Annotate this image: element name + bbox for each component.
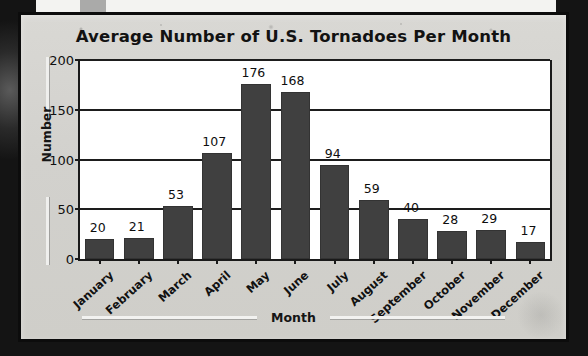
bar [476, 230, 506, 259]
bar [85, 239, 115, 259]
y-tick-mark [75, 159, 80, 161]
bar-group: 168 [281, 60, 311, 259]
bar [241, 84, 271, 259]
bar-group: 176 [241, 60, 271, 259]
bar [124, 238, 154, 259]
bar-value-label: 94 [325, 146, 341, 161]
bar-value-label: 20 [90, 220, 106, 235]
bar-group: 29 [476, 60, 506, 259]
y-tick-label: 150 [49, 102, 74, 117]
x-category-label: July [324, 268, 351, 294]
x-axis-rule-left [82, 316, 257, 319]
bar-value-label: 53 [168, 187, 184, 202]
y-tick-mark [75, 208, 80, 210]
y-tick-label: 0 [66, 252, 74, 267]
bar-value-label: 17 [521, 223, 537, 238]
y-tick-mark [75, 109, 80, 111]
bar [202, 153, 232, 259]
bar-group: 53 [163, 60, 193, 259]
x-axis-label: Month [271, 310, 316, 325]
x-category-label: March [155, 268, 194, 305]
bar-group: 20 [85, 60, 115, 259]
bar-value-label: 107 [202, 134, 226, 149]
y-axis-rule-bottom [46, 197, 49, 265]
chart-card: Average Number of U.S. Tornadoes Per Mon… [18, 12, 569, 342]
bar-group: 40 [398, 60, 428, 259]
bar-group: 94 [320, 60, 350, 259]
y-tick-label: 200 [49, 53, 74, 68]
bar-group: 59 [359, 60, 389, 259]
bar-value-label: 168 [281, 73, 305, 88]
bar-group: 28 [437, 60, 467, 259]
bar [398, 219, 428, 259]
chart-title: Average Number of U.S. Tornadoes Per Mon… [21, 27, 566, 46]
y-tick-mark [75, 59, 80, 61]
x-axis-rule-right [330, 316, 505, 319]
bar [163, 206, 193, 259]
y-tick-label: 100 [49, 152, 74, 167]
plot-area: 050100150200 202153107176168945940282917… [78, 60, 552, 259]
x-category-label: April [201, 268, 233, 299]
scanned-page: Average Number of U.S. Tornadoes Per Mon… [0, 0, 588, 356]
bar-value-label: 21 [129, 219, 145, 234]
x-axis-baseline [78, 259, 552, 261]
bar-value-label: 176 [241, 65, 265, 80]
bar-group: 107 [202, 60, 232, 259]
bar-value-label: 40 [403, 200, 419, 215]
bar [359, 200, 389, 259]
y-tick-label: 50 [57, 202, 74, 217]
x-axis-label-group: Month [21, 310, 566, 325]
bar-value-label: 28 [442, 212, 458, 227]
bar-value-label: 29 [481, 211, 497, 226]
bar [516, 242, 546, 259]
bar [281, 92, 311, 259]
bar-group: 17 [516, 60, 546, 259]
x-category-label: June [281, 268, 312, 297]
bar-value-label: 59 [364, 181, 380, 196]
bar [437, 231, 467, 259]
bar-group: 21 [124, 60, 154, 259]
bar [320, 165, 350, 259]
x-category-label: May [244, 268, 273, 296]
